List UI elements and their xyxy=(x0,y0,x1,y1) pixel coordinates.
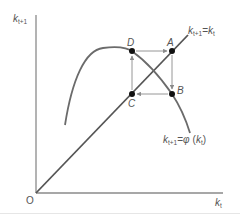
point-a xyxy=(169,48,175,54)
x-axis-label: kt xyxy=(215,197,222,209)
diagonal-line xyxy=(36,35,188,193)
point-c xyxy=(129,91,135,97)
bottom-divider xyxy=(0,213,240,214)
y-axis-label: kt+1 xyxy=(13,13,28,25)
point-d-label: D xyxy=(127,37,134,48)
point-a-label: A xyxy=(166,37,174,48)
point-d xyxy=(129,48,135,54)
diagonal-label: kt+1=kt xyxy=(188,25,215,37)
point-c-label: C xyxy=(128,98,136,109)
point-b-label: B xyxy=(177,85,184,96)
phi-curve xyxy=(65,47,190,133)
point-b xyxy=(169,91,175,97)
phase-diagram: kt+1 kt O kt+1=kt kt+1=φ(kt) D A B C xyxy=(0,0,240,216)
origin-label: O xyxy=(26,195,34,206)
curve-label: kt+1=φ(kt) xyxy=(163,134,206,146)
